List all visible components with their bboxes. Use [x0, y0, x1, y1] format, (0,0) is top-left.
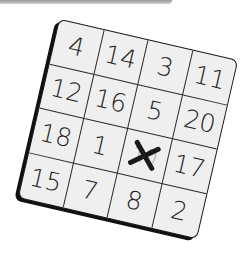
cell-number: 11 — [191, 60, 229, 95]
cell-number: 18 — [37, 118, 75, 153]
number-grid-card: 4 14 3 11 12 16 5 20 18 1 10 17 15 7 8 2 — [18, 19, 239, 240]
x-icon — [124, 135, 165, 176]
cell-number: 8 — [123, 185, 145, 217]
cell-number: 4 — [65, 31, 87, 63]
cell-number: 1 — [89, 130, 111, 162]
cell-number: 20 — [181, 104, 219, 139]
cell-number: 2 — [168, 195, 190, 227]
cell-number: 14 — [102, 39, 140, 74]
cell-number: 5 — [144, 95, 166, 127]
cell-number: 3 — [154, 51, 176, 83]
grid-cell-r4c4[interactable]: 2 — [152, 184, 207, 239]
cell-number: 16 — [92, 83, 130, 118]
top-banner-edge — [0, 0, 172, 4]
cell-number: 12 — [47, 73, 85, 108]
cell-number: 17 — [171, 148, 209, 183]
cell-number: 15 — [27, 162, 65, 197]
cell-number: 7 — [79, 174, 101, 206]
